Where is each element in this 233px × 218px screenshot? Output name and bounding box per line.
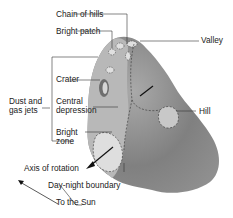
label-valley: Valley (201, 36, 223, 45)
label-day-night-boundary: Day-night boundary (48, 181, 120, 190)
label-central-depression-2: depression (56, 106, 97, 115)
label-bright-zone-2: zone (56, 137, 74, 146)
label-crater: Crater (56, 75, 79, 84)
hill (158, 107, 178, 128)
label-to-the-sun: To the Sun (56, 198, 96, 207)
label-dust-and-gas-jets-2: gas jets (9, 106, 38, 115)
label-hill: Hill (199, 107, 211, 116)
label-chain-of-hills: Chain of hills (56, 10, 104, 19)
label-axis-of-rotation: Axis of rotation (24, 164, 79, 173)
label-bright-patch: Bright patch (56, 27, 100, 36)
